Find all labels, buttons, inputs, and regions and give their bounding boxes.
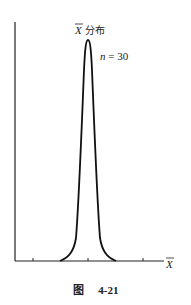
n-annotation: n = 30	[100, 50, 129, 62]
caption-prefix: 图	[73, 284, 84, 296]
x-axis-label: X	[165, 258, 174, 270]
figure-caption: 图 4-21	[0, 281, 191, 297]
distribution-curve	[60, 40, 116, 261]
chart: X 分布 n = 30 X	[0, 0, 191, 305]
curve-title-cn: 分布	[85, 25, 105, 36]
caption-number: 4-21	[98, 284, 118, 296]
curve-title: X	[74, 24, 83, 36]
